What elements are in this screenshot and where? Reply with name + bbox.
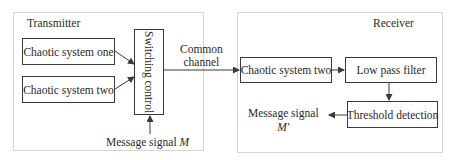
threshold-detection-block: Threshold detection [347, 101, 438, 128]
receiver-title: Receiver [373, 17, 414, 29]
message-signal-output: Message signal M' [248, 106, 319, 134]
transmitter-title: Transmitter [27, 17, 80, 29]
common-channel-label: Common channel [180, 43, 223, 69]
chaotic-system-one-block: Chaotic system one [22, 38, 115, 65]
channel-line1: Common [180, 43, 223, 56]
chaotic-system-two-block: Chaotic system two [22, 76, 115, 103]
message-signal-input: Message signal M [106, 136, 189, 148]
output-label: Message signal [248, 106, 319, 120]
message-signal-label: Message signal [106, 136, 177, 148]
message-symbol: M [179, 136, 189, 148]
output-symbol: M' [248, 120, 319, 134]
channel-line2: channel [180, 56, 223, 69]
low-pass-filter-block: Low pass filter [345, 57, 437, 83]
switching-control-block: Switching control [134, 29, 164, 115]
chaotic-system-two-rx-block: Chaotic system two [240, 57, 332, 83]
